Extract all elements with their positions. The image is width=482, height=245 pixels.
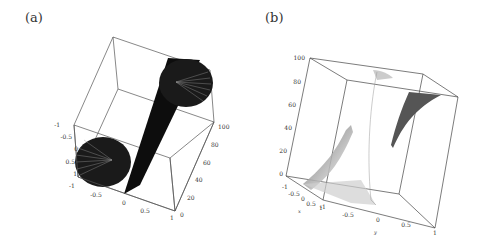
tick-a-bottom-0: -1: [69, 182, 75, 189]
tick-b-y-0: -1: [320, 203, 326, 210]
tick-a-right-5: 0: [180, 211, 184, 218]
tick-a-bottom-1: -0.5: [90, 191, 102, 198]
panel-a: (a): [0, 0, 241, 245]
tick-a-left-3: 0.5: [65, 158, 75, 165]
panel-b: (b) 100 80 60 40 2: [241, 0, 482, 245]
tick-a-left-1: -0.5: [60, 133, 72, 140]
tick-b-y-4: 1: [433, 229, 437, 236]
tick-b-z-2: 60: [288, 101, 296, 108]
axis-b-x-label: x: [298, 208, 301, 214]
tick-b-z-1: 80: [293, 78, 301, 85]
tick-b-z-5: 0: [279, 170, 283, 177]
tick-a-left-0: -1: [54, 121, 60, 128]
tick-b-z-4: 20: [279, 147, 287, 154]
panel-a-plot: -1 -0.5 0 0.5 1 -1 -0.5 0 0.5 1 100 80 6…: [0, 0, 241, 245]
tick-a-bottom-2: 0: [122, 199, 126, 206]
tick-b-z-0: 100: [294, 54, 306, 61]
tick-a-left-4: 1: [73, 170, 77, 177]
tick-b-x-0: -1: [282, 183, 288, 190]
panel-a-cone-top: [159, 59, 213, 107]
tick-a-right-1: 80: [211, 141, 219, 148]
tick-b-z-3: 40: [284, 124, 292, 131]
tick-a-right-2: 60: [203, 159, 211, 166]
tick-b-x-1: -0.5: [288, 190, 300, 197]
tick-a-bottom-3: 0.5: [140, 207, 150, 214]
panel-b-surface-upper: [391, 92, 441, 148]
panel-b-plot: 100 80 60 40 20 0 -1 -0.5 0 0.5 1 x -1 -…: [241, 0, 482, 245]
tick-a-right-0: 100: [218, 123, 230, 130]
tick-b-x-2: 0: [301, 195, 305, 202]
tick-b-y-2: 0: [376, 216, 380, 223]
tick-a-left-2: 0: [74, 145, 78, 152]
tick-a-right-4: 20: [187, 194, 195, 201]
axis-b-y-label: y: [373, 229, 377, 236]
tick-b-y-1: -0.5: [342, 211, 354, 218]
tick-b-y-3: 0.5: [401, 221, 411, 228]
panel-b-surface-lower: [303, 125, 353, 190]
tick-b-x-3: 0.5: [306, 200, 316, 207]
tick-a-bottom-4: 1: [170, 214, 174, 221]
tick-a-right-3: 40: [195, 176, 203, 183]
panel-a-cone-bottom: [75, 137, 131, 187]
